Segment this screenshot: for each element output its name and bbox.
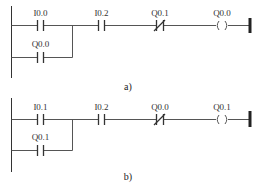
contact-label: I0.0: [33, 8, 48, 18]
caption: a): [124, 81, 132, 93]
contact-label: I0.2: [94, 8, 108, 18]
contact-label: Q0.1: [151, 8, 169, 18]
contact-label: Q0.0: [151, 102, 169, 112]
contact-label: Q0.0: [32, 39, 50, 49]
no-contact-icon: [38, 52, 44, 63]
coil-icon: [217, 115, 227, 124]
caption: b): [124, 171, 132, 183]
coil-icon: [217, 21, 227, 30]
no-contact-icon: [99, 20, 105, 31]
ladder-diagram-a: I0.0 Q0.0 I0.2 Q0.1 Q0.0 a): [12, 6, 251, 93]
no-contact-icon: [38, 20, 44, 31]
coil-label: Q0.0: [213, 8, 231, 18]
contact-label: I0.2: [94, 102, 108, 112]
no-contact-icon: [38, 145, 44, 156]
coil-label: Q0.1: [213, 102, 231, 112]
no-contact-icon: [38, 114, 44, 125]
contact-label: I0.1: [33, 102, 47, 112]
ladder-diagram-b: I0.1 Q0.1 I0.2 Q0.0 Q0.1 b): [12, 98, 251, 183]
ladder-diagrams: I0.0 Q0.0 I0.2 Q0.1 Q0.0 a): [0, 0, 257, 190]
no-contact-icon: [99, 114, 105, 125]
contact-label: Q0.1: [32, 132, 50, 142]
